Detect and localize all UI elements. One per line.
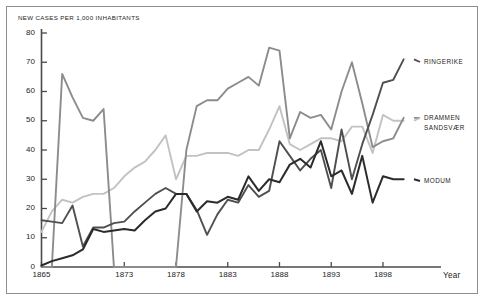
y-tick-label: 30 bbox=[19, 174, 35, 183]
y-tick-label: 80 bbox=[19, 28, 35, 37]
y-tick-label: 70 bbox=[19, 57, 35, 66]
y-tick-label: 40 bbox=[19, 145, 35, 154]
series-lines bbox=[42, 48, 404, 267]
series-label-leader-lines bbox=[414, 59, 420, 181]
x-tick-label: 1898 bbox=[366, 270, 400, 279]
y-tick-label: 20 bbox=[19, 203, 35, 212]
figure-container: NEW CASES PER 1,000 INHABITANTS Year 010… bbox=[0, 0, 486, 302]
x-tick-label: 1873 bbox=[107, 270, 141, 279]
series-label-ringerike: RINGERIKE bbox=[424, 58, 463, 65]
series-line-drammen bbox=[42, 48, 404, 267]
series-line-modum bbox=[42, 141, 404, 265]
leader-line-modum bbox=[414, 179, 420, 181]
y-tick-label: 60 bbox=[19, 86, 35, 95]
series-label-sandsvaer: SANDSVÆR bbox=[424, 124, 465, 131]
y-tick-label: 50 bbox=[19, 115, 35, 124]
series-label-modum: MODUM bbox=[424, 177, 451, 184]
x-tick-label: 1888 bbox=[262, 270, 296, 279]
series-label-drammen: DRAMMEN bbox=[424, 114, 460, 121]
line-chart-plot bbox=[0, 0, 486, 302]
y-tick-label: 10 bbox=[19, 232, 35, 241]
x-tick-label: 1883 bbox=[211, 270, 245, 279]
leader-line-ringerike bbox=[414, 59, 420, 62]
x-tick-label: 1878 bbox=[159, 270, 193, 279]
x-tick-label: 1893 bbox=[314, 270, 348, 279]
x-tick-label: 1865 bbox=[25, 270, 59, 279]
